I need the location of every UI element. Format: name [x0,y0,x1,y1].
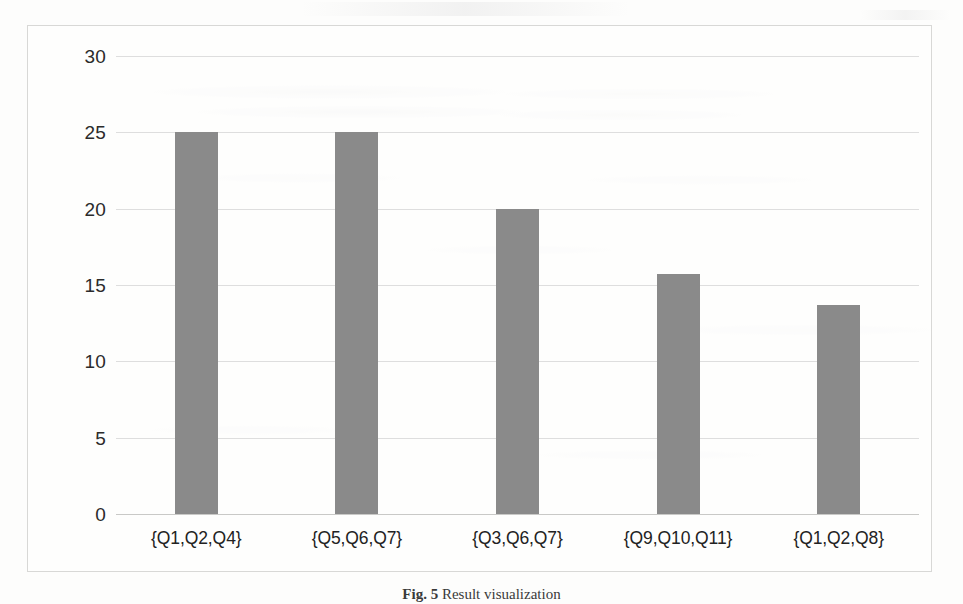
y-axis-tick-label: 20 [84,199,106,221]
x-axis-tick-label: {Q1,Q2,Q4} [124,528,269,549]
scan-smudge-right [860,10,950,20]
y-axis-tick-label: 25 [84,122,106,144]
bar [817,305,860,514]
x-axis-labels: {Q1,Q2,Q4}{Q5,Q6,Q7}{Q3,Q6,Q7}{Q9,Q10,Q1… [116,523,919,553]
figure-caption: Fig. 5 Result visualization [0,586,963,604]
y-axis-tick-label: 15 [84,275,106,297]
bar [175,132,218,514]
y-axis-tick-label: 30 [84,46,106,68]
bar [657,274,700,514]
bar-series [116,56,919,514]
gridline: 0 [116,514,919,515]
figure-caption-text: Result visualization [442,586,561,602]
bar-column [285,56,430,514]
bar-column [606,56,751,514]
x-axis-tick-label: {Q9,Q10,Q11} [606,528,751,549]
bar-column [445,56,590,514]
figure-caption-label: Fig. 5 [402,586,438,602]
bar [496,209,539,514]
y-axis-tick-label: 10 [84,351,106,373]
scan-smudge-top [300,2,630,16]
y-axis-tick-label: 0 [95,504,106,526]
bar [335,132,378,514]
x-axis-tick-label: {Q3,Q6,Q7} [445,528,590,549]
bar-column [766,56,911,514]
bar-chart-plot: 302520151050 {Q1,Q2,Q4}{Q5,Q6,Q7}{Q3,Q6,… [28,26,933,573]
chart-frame: 302520151050 {Q1,Q2,Q4}{Q5,Q6,Q7}{Q3,Q6,… [27,25,932,572]
x-axis-tick-label: {Q5,Q6,Q7} [285,528,430,549]
bar-column [124,56,269,514]
x-axis-tick-label: {Q1,Q2,Q8} [766,528,911,549]
y-axis-tick-label: 5 [95,428,106,450]
